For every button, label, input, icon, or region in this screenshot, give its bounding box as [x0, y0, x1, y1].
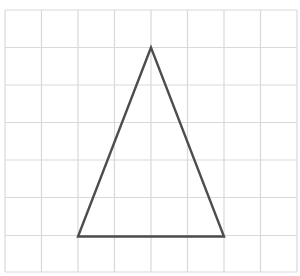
grid-diagram [0, 0, 300, 276]
